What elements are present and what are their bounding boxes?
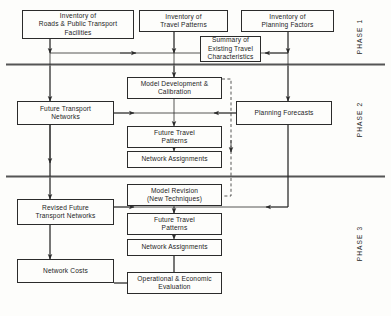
- box-line: Calibration: [130, 88, 219, 96]
- box-line: Future Travel: [130, 216, 219, 224]
- box-line: Future Transport: [20, 105, 111, 113]
- box-line: Patterns: [130, 137, 219, 145]
- box-operational-economic-evaluation[interactable]: Operational & Economic Evaluation: [127, 272, 222, 294]
- box-line: Operational & Economic: [130, 275, 219, 283]
- box-line: Network Assignments: [130, 243, 219, 251]
- box-model-development-calibration[interactable]: Model Development & Calibration: [127, 77, 222, 99]
- box-line: Existing Travel: [203, 45, 258, 53]
- box-inventory-travel-patterns[interactable]: Inventory of Travel Patterns: [139, 10, 228, 32]
- box-line: Roads & Public Transport: [25, 20, 131, 28]
- box-line: Model Development &: [130, 80, 219, 88]
- box-line: Model Revision: [130, 187, 219, 195]
- box-revised-future-transport-networks[interactable]: Revised Future Transport Networks: [17, 199, 114, 225]
- box-line: Future Travel: [130, 129, 219, 137]
- box-planning-forecasts[interactable]: Planning Forecasts: [236, 101, 332, 125]
- box-line: (New Techniques): [130, 195, 219, 203]
- phase-label-2: PHASE 2: [356, 102, 363, 138]
- box-line: Inventory of: [142, 13, 225, 21]
- dashed-feedback-line: [222, 79, 231, 196]
- box-line: Inventory of: [25, 12, 131, 20]
- box-line: Patterns: [130, 224, 219, 232]
- box-network-assignments-phase3[interactable]: Network Assignments: [127, 239, 222, 256]
- box-line: Characteristics: [203, 53, 258, 61]
- box-line: Facilities: [25, 29, 131, 37]
- flowchart-canvas: Inventory of Roads & Public Transport Fa…: [0, 0, 391, 316]
- box-line: Planning Forecasts: [239, 109, 329, 117]
- box-model-revision[interactable]: Model Revision (New Techniques): [127, 184, 222, 206]
- box-inventory-roads[interactable]: Inventory of Roads & Public Transport Fa…: [22, 10, 134, 39]
- box-line: Inventory of: [244, 13, 331, 21]
- box-line: Travel Patterns: [142, 21, 225, 29]
- box-line: Planning Factors: [244, 21, 331, 29]
- box-line: Evaluation: [130, 283, 219, 291]
- box-network-assignments-phase2[interactable]: Network Assignments: [127, 151, 222, 168]
- box-future-transport-networks[interactable]: Future Transport Networks: [17, 101, 114, 125]
- phase-label-3: PHASE 3: [356, 226, 363, 262]
- box-network-costs[interactable]: Network Costs: [17, 259, 114, 283]
- box-line: Summary of: [203, 36, 258, 44]
- box-summary-existing-travel[interactable]: Summary of Existing Travel Characteristi…: [200, 36, 261, 62]
- box-future-travel-patterns-phase2[interactable]: Future Travel Patterns: [127, 126, 222, 148]
- box-line: Networks: [20, 113, 111, 121]
- box-line: Network Assignments: [130, 155, 219, 163]
- box-line: Transport Networks: [20, 212, 111, 220]
- box-future-travel-patterns-phase3[interactable]: Future Travel Patterns: [127, 213, 222, 235]
- box-inventory-planning-factors[interactable]: Inventory of Planning Factors: [241, 10, 334, 32]
- phase-label-1: PHASE 1: [356, 19, 363, 55]
- box-line: Revised Future: [20, 204, 111, 212]
- box-line: Network Costs: [20, 267, 111, 275]
